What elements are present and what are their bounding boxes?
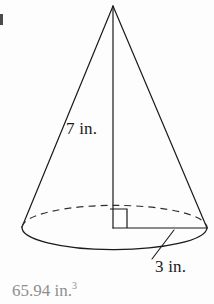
cone-left-slant-line xyxy=(22,6,113,227)
volume-answer-text: 65.94 in.3 xyxy=(12,282,77,299)
radius-label: 3 in. xyxy=(155,258,186,275)
volume-answer-value: 65.94 in. xyxy=(12,281,72,300)
volume-answer-exponent: 3 xyxy=(72,280,77,291)
cone-volume-figure: 7 in. 3 in. 65.94 in.3 xyxy=(0,0,214,304)
cone-base-front-arc xyxy=(22,227,207,250)
slant-height-label: 7 in. xyxy=(66,120,97,137)
cone-right-slant-line xyxy=(113,6,207,228)
